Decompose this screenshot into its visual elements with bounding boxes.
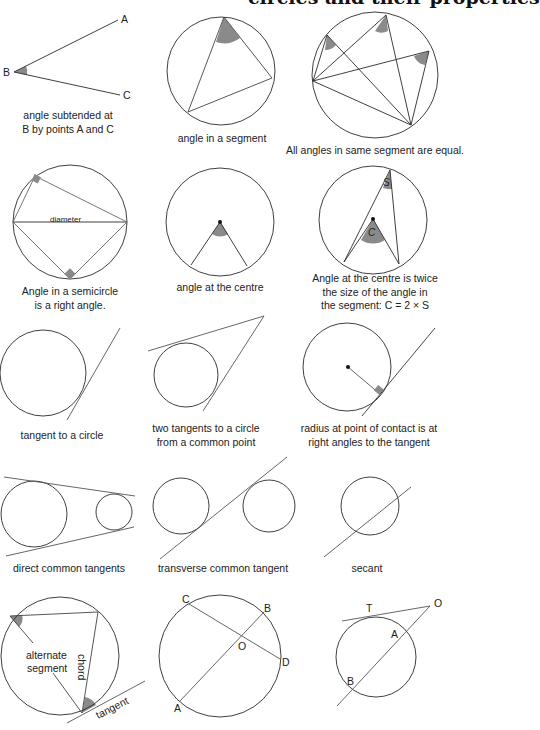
caption-line: the segment: C = 2 × S (312, 299, 437, 313)
caption-line: All angles in same segment are equal. (286, 144, 464, 158)
diagram-radius-tangent (303, 323, 435, 416)
diagram-intersecting-chords (159, 595, 281, 717)
caption-transverse-common-tangent: transverse common tangent (158, 562, 288, 576)
caption-line: angle at the centre (177, 281, 264, 295)
diameter-label: diameter (50, 216, 81, 224)
point-label-a: A (121, 14, 128, 25)
caption-line: angle in a segment (178, 132, 267, 146)
chord-point-c: C (182, 594, 190, 605)
diagram-angle-in-segment (167, 17, 275, 125)
caption-direct-common-tangents: direct common tangents (13, 562, 125, 576)
angle-label-c: C (368, 228, 375, 238)
diagram-angle-at-centre (166, 168, 274, 276)
caption-line: transverse common tangent (158, 562, 288, 576)
diagram-angles-same-segment (312, 12, 438, 138)
caption-line: from a common point (152, 436, 259, 450)
caption-line: radius at point of contact is at (301, 422, 438, 436)
caption-line: B by points A and C (22, 123, 114, 137)
caption-line: is a right angle. (22, 299, 118, 313)
secant-point-t: T (366, 603, 372, 614)
caption-line: Angle at the centre is twice (312, 272, 437, 286)
chord-label: chord (77, 654, 88, 680)
caption-secant: secant (352, 562, 383, 576)
caption-line: Angle in a semicircle (22, 285, 118, 299)
point-label-c: C (123, 90, 131, 101)
diagram-secant (324, 477, 411, 557)
caption-line: secant (352, 562, 383, 576)
diagram-centre-twice-segment (319, 166, 427, 274)
caption-angle-in-segment: angle in a segment (178, 132, 267, 146)
caption-line: tangent to a circle (21, 429, 104, 443)
caption-two-tangents: two tangents to a circle from a common p… (152, 422, 259, 449)
diagram-tangent-to-circle (0, 328, 120, 420)
angle-label-s: S (383, 178, 390, 188)
diagram-direct-common-tangents (1, 477, 135, 556)
segment-label: segment (27, 663, 67, 674)
diagram-transverse-common-tangent (153, 457, 295, 559)
chord-point-b: B (264, 603, 271, 614)
diagram-two-tangents (148, 316, 264, 411)
point-label-b: B (3, 67, 10, 78)
caption-angle-in-semicircle: Angle in a semicircle is a right angle. (22, 285, 118, 312)
caption-line: direct common tangents (13, 562, 125, 576)
chord-point-o: O (238, 641, 246, 652)
caption-line: right angles to the tangent (301, 436, 438, 450)
caption-line: angle subtended at (22, 109, 114, 123)
caption-angles-same-segment: All angles in same segment are equal. (286, 144, 464, 158)
diagram-tangent-secant (336, 606, 430, 706)
caption-tangent-to-circle: tangent to a circle (21, 429, 104, 443)
alternate-label: alternate (26, 650, 67, 661)
caption-line: the size of the angle in (312, 286, 437, 300)
caption-radius-tangent: radius at point of contact is at right a… (301, 422, 438, 449)
chord-point-d: D (282, 657, 290, 668)
chord-point-a: A (174, 703, 181, 714)
secant-point-o: O (434, 598, 442, 609)
caption-line: two tangents to a circle (152, 422, 259, 436)
caption-angle-at-centre: angle at the centre (177, 281, 264, 295)
diagram-angle-subtended (14, 20, 120, 95)
secant-point-a: A (391, 629, 398, 640)
caption-centre-twice-segment: Angle at the centre is twice the size of… (312, 272, 437, 313)
secant-point-b: B (347, 676, 354, 687)
caption-angle-subtended: angle subtended at B by points A and C (22, 109, 114, 136)
